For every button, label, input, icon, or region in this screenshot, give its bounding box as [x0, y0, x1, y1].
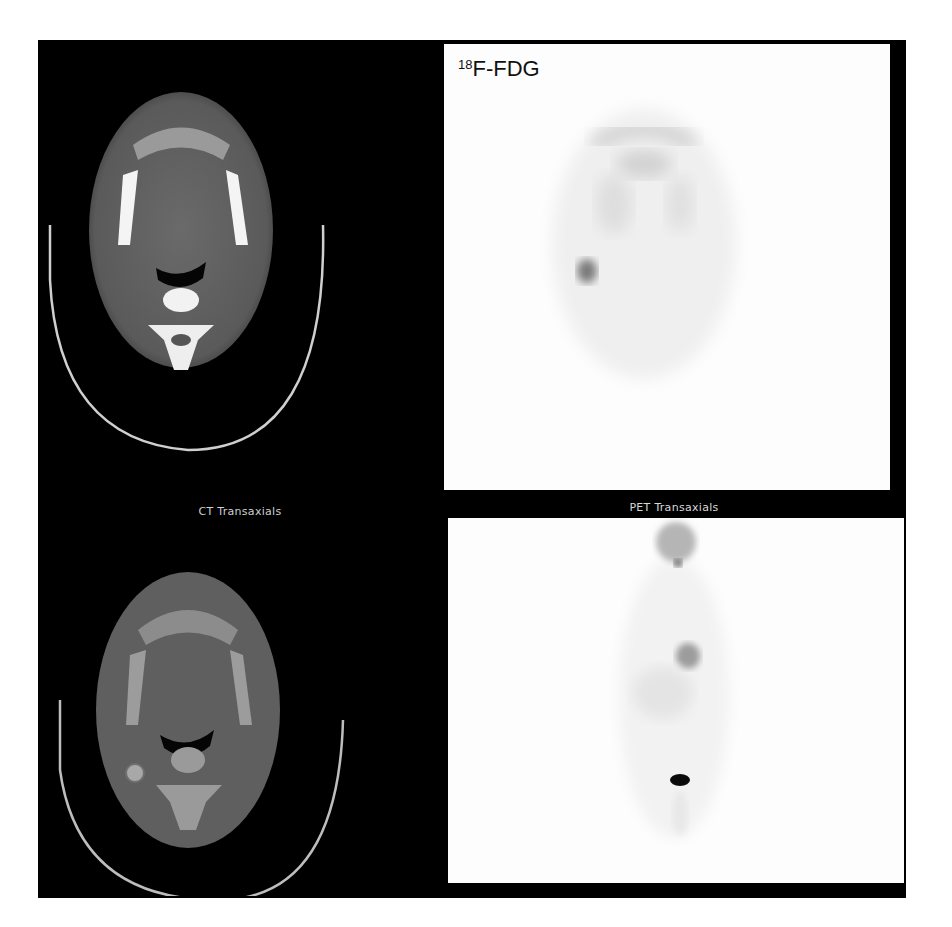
pet-caption: PET Transaxials: [444, 501, 904, 514]
ct-transaxial-bottom-image: [38, 520, 442, 896]
ct-transaxial-top-image: [38, 40, 442, 492]
ct-caption: CT Transaxials: [38, 505, 442, 518]
pet-transaxial-top-image: 18F-FDG: [444, 44, 890, 490]
pet-mip-image: [448, 518, 904, 883]
